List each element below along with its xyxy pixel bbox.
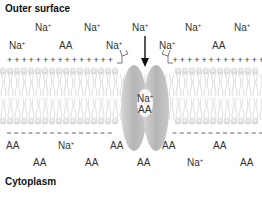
inner-ion-label: AA <box>240 157 253 168</box>
inner-ion-label: AA <box>213 140 226 151</box>
outer-ion-label: Na+ <box>9 40 25 51</box>
svg-text:+: + <box>29 55 34 65</box>
inner-ion-label: Na+ <box>58 140 74 151</box>
svg-text:+: + <box>43 55 48 65</box>
svg-text:+: + <box>93 55 98 65</box>
outer-ion-label: Na+ <box>185 22 201 33</box>
svg-text:+: + <box>173 55 178 65</box>
inner-ion-label: AA <box>162 140 175 151</box>
inner-ion-label: AA <box>6 140 19 151</box>
svg-text:+: + <box>180 55 185 65</box>
svg-text:+: + <box>245 55 250 65</box>
svg-text:+: + <box>223 55 228 65</box>
svg-text:+: + <box>72 55 77 65</box>
svg-text:+: + <box>101 55 106 65</box>
inner-ion-label: AA <box>110 140 123 151</box>
outer-ion-label: Na+ <box>84 22 100 33</box>
inner-ion-label: AA <box>85 157 98 168</box>
svg-text:+: + <box>252 55 257 65</box>
outer-ion-label: Na+ <box>159 40 175 51</box>
svg-text:+: + <box>230 55 235 65</box>
svg-text:+: + <box>194 55 199 65</box>
outer-ion-label: Na+ <box>132 22 148 33</box>
svg-text:+: + <box>86 55 91 65</box>
svg-text:+: + <box>237 55 242 65</box>
svg-text:+: + <box>209 55 214 65</box>
svg-text:+: + <box>57 55 62 65</box>
inner-ion-label: AA <box>137 157 150 168</box>
svg-text:+: + <box>79 55 84 65</box>
svg-text:+: + <box>65 55 70 65</box>
channel-na-label: Na+ <box>137 93 153 104</box>
inner-ion-label: Na+ <box>187 157 203 168</box>
svg-text:+: + <box>108 55 113 65</box>
outer-ion-label: AA <box>212 40 225 51</box>
channel-aa-label: AA <box>138 104 151 115</box>
svg-text:+: + <box>14 55 19 65</box>
svg-text:+: + <box>36 55 41 65</box>
svg-text:+: + <box>50 55 55 65</box>
svg-text:+: + <box>216 55 221 65</box>
outer-ion-label: Na+ <box>234 22 250 33</box>
svg-text:+: + <box>187 55 192 65</box>
svg-text:+: + <box>7 55 12 65</box>
svg-text:+: + <box>201 55 206 65</box>
svg-text:+: + <box>259 55 262 65</box>
svg-text:+: + <box>21 55 26 65</box>
outer-ion-label: AA <box>59 40 72 51</box>
outer-ion-label: Na+ <box>35 22 51 33</box>
inner-ion-label: AA <box>33 157 46 168</box>
down-arrow-icon <box>141 36 149 67</box>
outer-ion-label: Na+ <box>106 40 122 51</box>
